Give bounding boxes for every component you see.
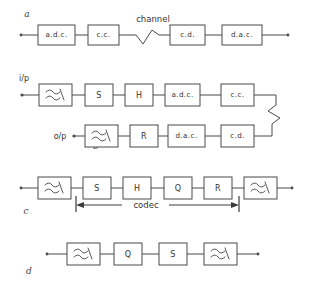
block-q-c-label: Q [175,184,182,193]
channel-label: channel [136,14,170,24]
block-cd-a-label: c.d. [180,30,195,39]
block-cc-a-label: c.c. [96,30,110,39]
block-adc-b-label: a.d.c. [171,90,193,99]
block-s-c-label: S [94,184,99,193]
row-c-output-terminal [291,187,294,190]
block-diagram-svg: a channel a.d.c. c.c. c.d. d.a.c. [0,0,312,286]
block-s-b-label: S [96,91,101,100]
block-cd-b-label: c.d. [230,131,245,140]
input-port-label-b: i/p [19,74,29,83]
block-adc-a-label: a.d.c. [45,30,67,39]
figure-label-d: d [26,266,32,276]
block-filter-input-c[interactable] [38,177,71,199]
block-filter-output-c[interactable] [244,177,277,199]
block-s-d-label: S [170,250,175,259]
figure-label-c: c [23,206,28,216]
output-port-label-b: o/p [54,132,67,141]
block-h-c-label: H [134,184,140,193]
figure-row-c: c S H Q [20,177,294,216]
block-dac-b-label: d.a.c. [175,131,197,140]
codec-label: codec [133,200,158,210]
block-r-c-label: R [215,184,221,193]
figure-label-a: a [24,9,29,19]
block-h-b-label: H [136,91,142,100]
block-filter-input-b[interactable] [39,84,72,106]
block-filter-output-d[interactable] [204,243,237,265]
block-q-d-label: Q [125,250,132,259]
block-dac-a-label: d.a.c. [231,30,253,39]
codec-arrow-left [76,202,84,208]
row-b-channel-zigzag [254,95,280,136]
block-filter-output-b[interactable] [85,125,118,147]
row-a-channel-zigzag [136,30,170,44]
block-filter-input-d[interactable] [67,243,100,265]
block-cc-b-label: c.c. [230,90,244,99]
figure-row-b: b i/p S H a.d.c. [19,74,280,151]
figure-row-a: a channel a.d.c. c.c. c.d. d.a.c. [20,9,290,46]
block-r-b-label: R [141,132,147,141]
codec-arrow-right [231,202,239,208]
figure-row-d: d Q S [26,243,259,276]
diagram-canvas: a channel a.d.c. c.c. c.d. d.a.c. [0,0,312,286]
row-d-output-terminal [257,253,260,256]
row-a-output-terminal [287,34,290,37]
